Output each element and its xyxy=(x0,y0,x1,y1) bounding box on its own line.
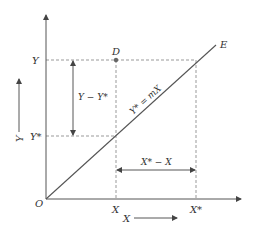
equilibrium-line xyxy=(46,45,216,199)
x-star-tick-label: X* xyxy=(189,204,202,215)
point-d xyxy=(114,58,118,62)
line-equation-label: Y* = mX xyxy=(128,83,164,117)
line-end-label: E xyxy=(219,39,228,50)
y-direction-label: Y xyxy=(14,134,25,142)
origin-label: O xyxy=(35,198,43,209)
y-star-tick-label: Y* xyxy=(30,131,42,142)
point-d-label: D xyxy=(111,46,120,57)
y-tick-label: Y xyxy=(32,55,40,66)
x-tick-label: X xyxy=(111,204,120,215)
y-gap-label: Y − Y* xyxy=(78,92,108,102)
x-gap-label: X* − X xyxy=(140,157,172,167)
diagram-canvas: O Y Y* X X* D E Y − Y* X* − X Y* = mX Y … xyxy=(0,0,255,235)
x-direction-label: X xyxy=(122,213,131,224)
